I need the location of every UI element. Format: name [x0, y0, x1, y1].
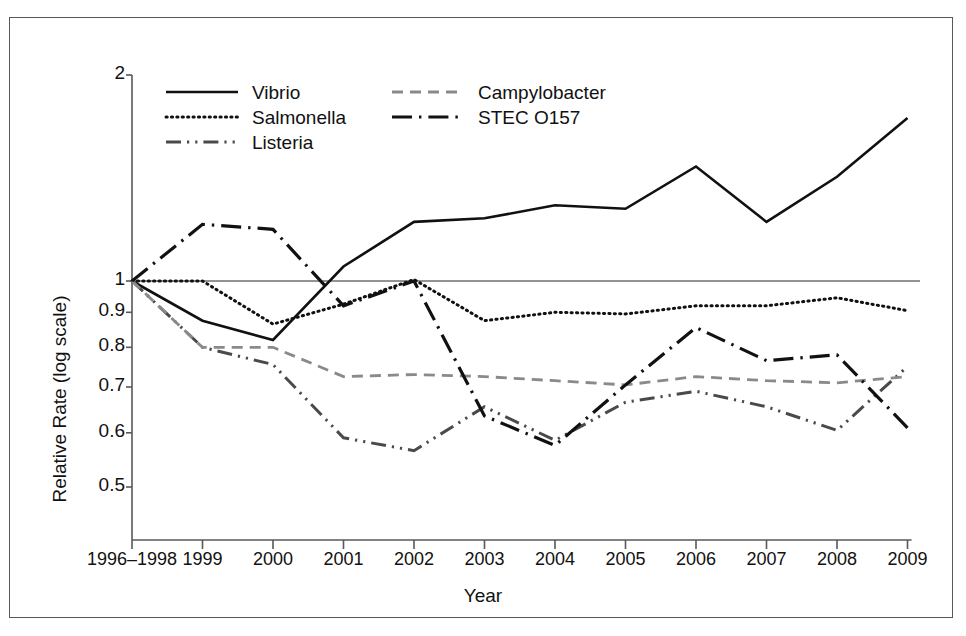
chart-series-group — [132, 118, 908, 451]
legend-label-campylobacter: Campylobacter — [478, 82, 606, 103]
series-line-listeria — [132, 281, 908, 451]
chart-plot-area: VibrioCampylobacterSalmonellaSTEC O157Li… — [0, 0, 966, 636]
figure-container: Relative Rate (log scale) 210.90.80.70.6… — [0, 0, 966, 636]
series-line-salmonella — [132, 280, 908, 325]
chart-legend: VibrioCampylobacterSalmonellaSTEC O157Li… — [166, 82, 606, 153]
legend-label-vibrio: Vibrio — [252, 82, 300, 103]
legend-label-listeria: Listeria — [252, 132, 314, 153]
series-line-stec-o157 — [132, 224, 908, 445]
legend-label-stec-o157: STEC O157 — [478, 107, 580, 128]
chart-axes — [126, 75, 912, 549]
legend-label-salmonella: Salmonella — [252, 107, 346, 128]
